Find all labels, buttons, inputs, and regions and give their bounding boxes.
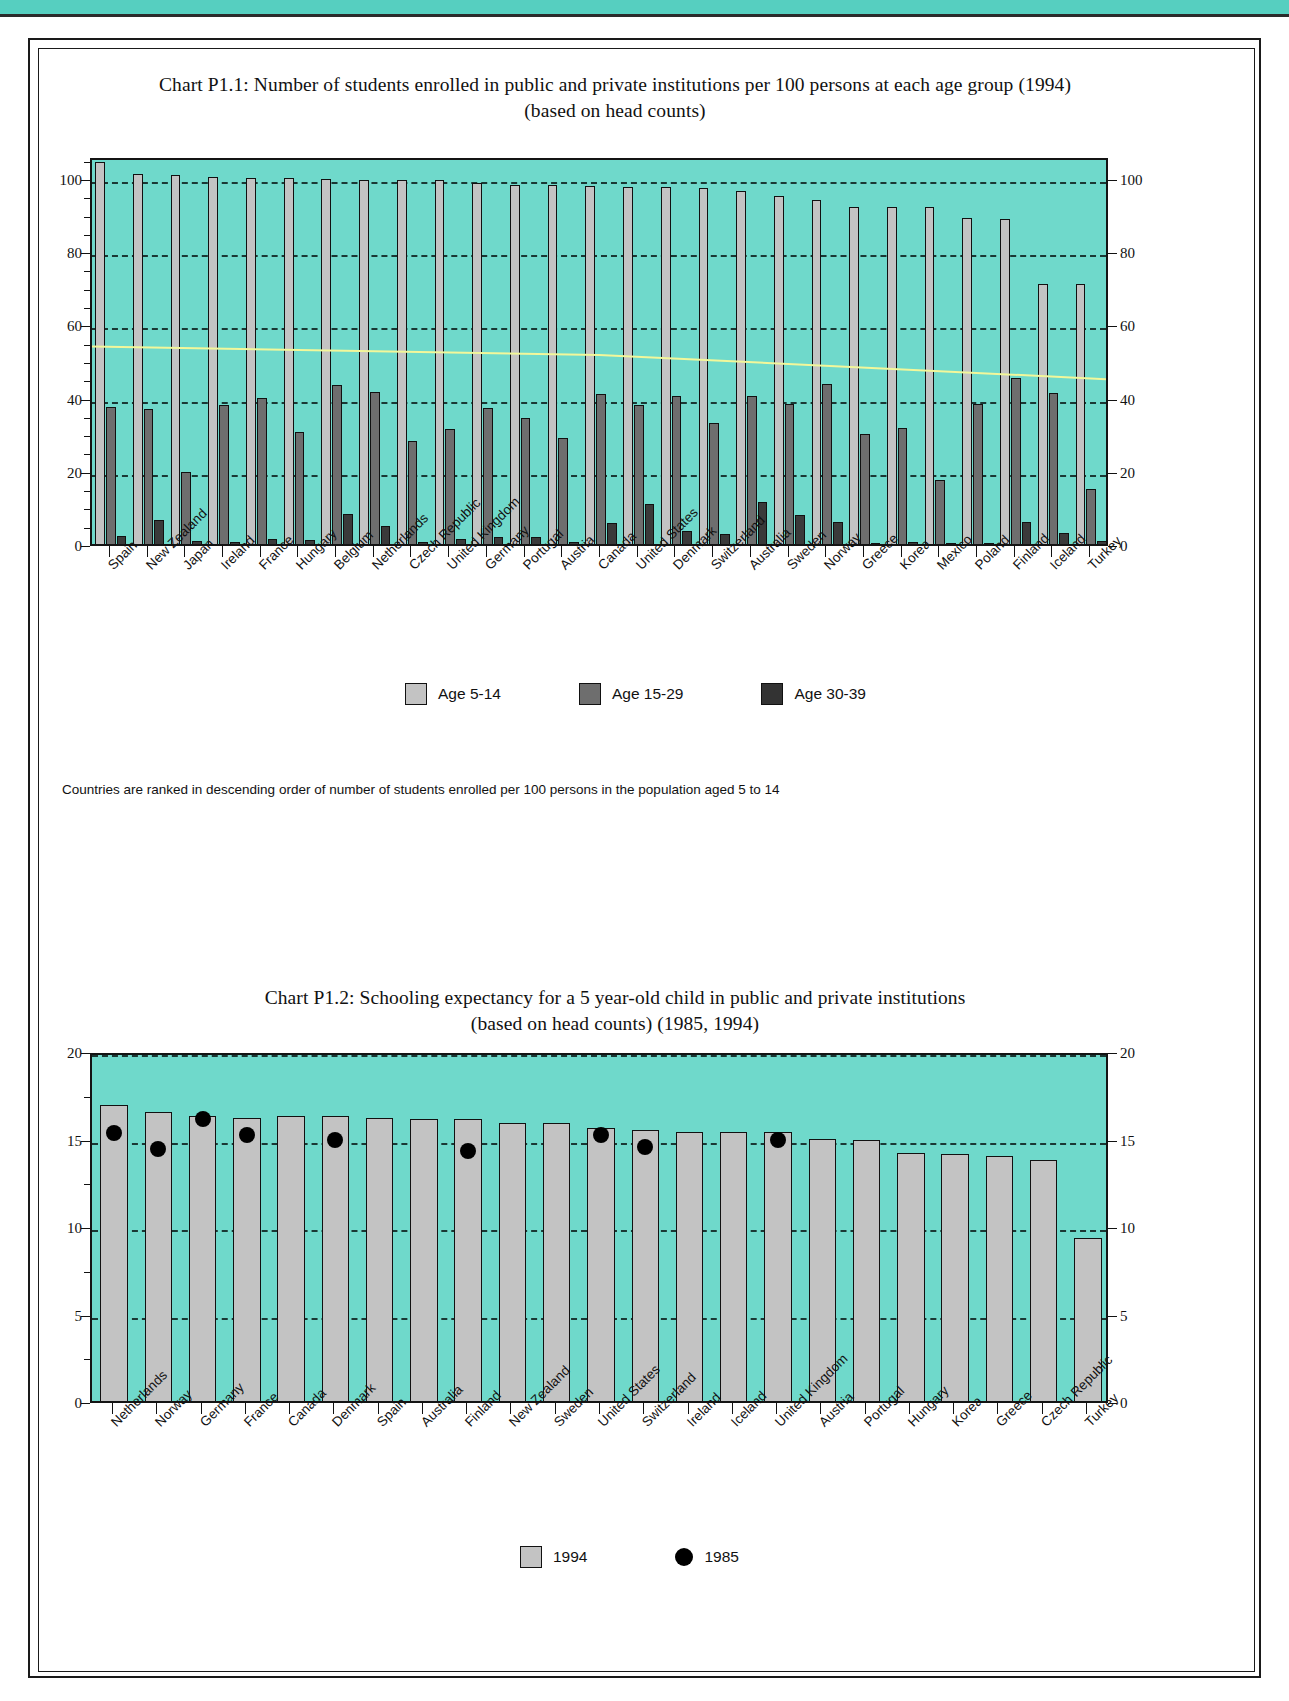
bar-1 [499, 1123, 526, 1401]
legend-label: Age 5-14 [438, 685, 501, 703]
bar-1 [720, 1132, 747, 1402]
bar-1 [853, 1140, 880, 1401]
y-axis-tick-mark-right [1108, 1228, 1117, 1229]
x-axis-tick-mark [901, 546, 902, 557]
bar-1 [366, 1118, 393, 1402]
y-axis-tick-label-left: 5 [38, 1307, 82, 1324]
chart1-footnote: Countries are ranked in descending order… [62, 782, 1162, 797]
legend-item: Age 30-39 [761, 683, 866, 705]
x-axis-tick-mark [1014, 546, 1015, 557]
bar-1 [322, 1116, 349, 1401]
bar-group [667, 1055, 711, 1401]
y-axis-tick-mark [81, 1141, 90, 1142]
bar-1 [454, 1119, 481, 1401]
page-top-accent-rule [0, 0, 1289, 14]
bar-group [269, 1055, 313, 1401]
bar-1 [897, 1153, 924, 1402]
chart2-title-line2: (based on head counts) (1985, 1994) [60, 1011, 1170, 1037]
chart2-plot-area [90, 1053, 1108, 1403]
chart1-plot-area [90, 158, 1108, 546]
y-axis-tick-label-left: 20 [38, 1045, 82, 1062]
x-axis-tick-mark [865, 1403, 866, 1414]
x-axis-tick-mark [373, 546, 374, 557]
x-axis-tick-mark [201, 1403, 202, 1414]
bar-group [181, 1055, 225, 1401]
y-axis-tick-label-right: 40 [1120, 391, 1164, 408]
chart1-legend: Age 5-14Age 15-29Age 30-39 [405, 683, 944, 705]
y-axis-minor-tick [84, 198, 90, 199]
y-axis-minor-tick [84, 491, 90, 492]
legend-swatch [405, 683, 427, 705]
y-axis-minor-tick [84, 381, 90, 382]
data-point-1985 [637, 1139, 653, 1155]
y-axis-tick-mark [81, 253, 90, 254]
y-axis-tick-label-right: 10 [1120, 1220, 1164, 1237]
y-axis-tick-label-right: 60 [1120, 318, 1164, 335]
bar-group [313, 1055, 357, 1401]
x-axis-tick-mark [688, 1403, 689, 1414]
bar-1 [233, 1118, 260, 1402]
legend-item: Age 5-14 [405, 683, 501, 705]
y-axis-tick-label-left: 100 [38, 171, 82, 188]
bar-group [712, 1055, 756, 1401]
y-axis-tick-mark [81, 1316, 90, 1317]
y-axis-tick-mark [81, 1228, 90, 1229]
chart1-title-line1: Chart P1.1: Number of students enrolled … [60, 72, 1170, 98]
data-point-1985 [150, 1141, 166, 1157]
x-axis-tick-mark [524, 546, 525, 557]
x-axis-tick-mark [909, 1403, 910, 1414]
y-axis-tick-mark-right [1108, 1053, 1117, 1054]
legend-label: 1985 [704, 1548, 738, 1566]
legend-label: 1994 [553, 1548, 587, 1566]
y-axis-tick-mark-right [1108, 326, 1117, 327]
legend-item: 1994 [520, 1546, 587, 1568]
y-axis-minor-tick [84, 1359, 90, 1360]
y-axis-minor-tick [84, 436, 90, 437]
chart2-title-line1: Chart P1.2: Schooling expectancy for a 5… [60, 985, 1170, 1011]
y-axis-tick-mark [81, 546, 90, 547]
y-axis-minor-tick [84, 509, 90, 510]
data-point-1985 [106, 1125, 122, 1141]
y-axis-tick-mark-right [1108, 180, 1117, 181]
y-axis-tick-mark [81, 326, 90, 327]
y-axis-minor-tick [84, 345, 90, 346]
y-axis-minor-tick [84, 418, 90, 419]
legend-label: Age 30-39 [794, 685, 866, 703]
bar-group [358, 1055, 402, 1401]
x-axis-tick-mark [732, 1403, 733, 1414]
y-axis-minor-tick [84, 363, 90, 364]
bar-group [800, 1055, 844, 1401]
bar-1 [941, 1154, 968, 1401]
bar-1 [676, 1132, 703, 1402]
bar-group [623, 1055, 667, 1401]
bar-1 [543, 1123, 570, 1401]
x-axis-tick-mark [750, 546, 751, 557]
y-axis-minor-tick [84, 271, 90, 272]
bar-group [844, 1055, 888, 1401]
y-axis-tick-label-left: 20 [38, 464, 82, 481]
data-point-1985 [460, 1143, 476, 1159]
bar-1 [189, 1116, 216, 1401]
y-axis-tick-label-right: 20 [1120, 1045, 1164, 1062]
data-point-1985 [593, 1127, 609, 1143]
y-axis-tick-label-left: 40 [38, 391, 82, 408]
legend-swatch [520, 1546, 542, 1568]
y-axis-tick-label-right: 20 [1120, 464, 1164, 481]
bar-group [225, 1055, 269, 1401]
x-axis-tick-mark [788, 546, 789, 557]
y-axis-tick-label-right: 0 [1120, 1395, 1164, 1412]
y-axis-tick-label-left: 15 [38, 1132, 82, 1149]
data-point-1985 [327, 1132, 343, 1148]
legend-swatch [579, 683, 601, 705]
legend-item: Age 15-29 [579, 683, 684, 705]
bar-group [1021, 1055, 1065, 1401]
bar-1 [587, 1128, 614, 1401]
y-axis-tick-label-right: 5 [1120, 1307, 1164, 1324]
y-axis-tick-label-left: 0 [38, 538, 82, 555]
y-axis-tick-mark-right [1108, 400, 1117, 401]
bar-group [889, 1055, 933, 1401]
bar-group [136, 1055, 180, 1401]
bar-group [1066, 1055, 1110, 1401]
y-axis-tick-label-right: 0 [1120, 538, 1164, 555]
y-axis-tick-mark-right [1108, 473, 1117, 474]
